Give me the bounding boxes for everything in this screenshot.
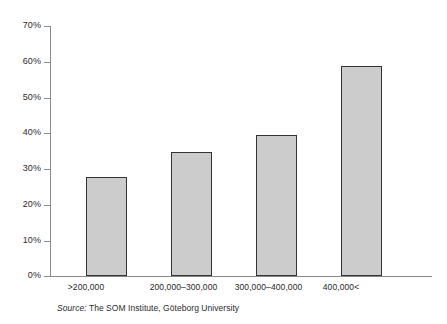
bar-series-2 [256, 135, 297, 276]
x-axis-label-0: >200,000 [46, 282, 126, 292]
source-text: The SOM Institute, Göteborg University [87, 303, 240, 313]
y-axis-label-30: 30% [1, 164, 41, 173]
bar-series-0 [86, 177, 127, 276]
y-axis-label-60: 60% [1, 57, 41, 66]
bar-series-3 [341, 66, 382, 276]
y-axis-label-10: 10% [1, 236, 41, 245]
source-note: Source: The SOM Institute, Göteborg Univ… [57, 303, 239, 314]
plot-area [50, 26, 432, 276]
y-axis-label-50: 50% [1, 93, 41, 102]
source-label: Source: [57, 303, 87, 313]
bar-chart-figure: 70% 60% 50% 40% 30% 20% 10% 0% >200,000 … [0, 0, 447, 324]
y-axis-label-70: 70% [1, 21, 41, 30]
bar-series-1 [171, 152, 212, 276]
y-axis-label-20: 20% [1, 200, 41, 209]
y-axis-label-40: 40% [1, 128, 41, 137]
x-axis-label-3: 400,000< [301, 282, 381, 292]
y-axis-label-0: 0% [1, 271, 41, 280]
x-axis-line [50, 276, 432, 277]
